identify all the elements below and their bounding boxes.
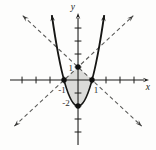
graph-canvas: y x 1 -1 1 -2 xyxy=(0,0,156,150)
y-axis-label: y xyxy=(70,2,76,12)
point-label-x1: 1 xyxy=(94,85,99,95)
generated-plot-layers xyxy=(10,13,149,145)
point-label-y1: 1 xyxy=(69,63,74,73)
point-label-yneg2: -2 xyxy=(62,98,70,108)
function-graph-figure: y x 1 -1 1 -2 xyxy=(0,0,156,150)
dashed-line-line-negative-slope xyxy=(23,16,142,126)
marked-point-dot xyxy=(61,77,66,82)
marked-point-dot xyxy=(89,77,94,82)
point-label-xneg1: -1 xyxy=(58,85,66,95)
marked-point-dot xyxy=(75,64,80,69)
marked-point-dot xyxy=(75,103,80,108)
x-axis-label: x xyxy=(145,82,151,92)
